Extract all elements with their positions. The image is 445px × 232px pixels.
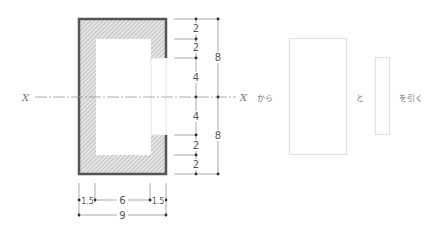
axis-label-right: X	[239, 92, 248, 103]
svg-text:4: 4	[193, 72, 199, 83]
and-text: と	[356, 94, 364, 103]
svg-text:2: 2	[193, 140, 199, 151]
svg-text:8: 8	[215, 130, 221, 141]
channel-section-diagram: X X 2 2 4 4 2 2 8 8	[0, 0, 445, 232]
svg-text:2: 2	[193, 23, 199, 34]
channel-section	[79, 19, 166, 174]
inner-rectangle	[376, 58, 390, 135]
axis-label-left: X	[21, 92, 30, 103]
svg-text:9: 9	[119, 210, 125, 221]
svg-text:6: 6	[119, 195, 125, 206]
horizontal-dimension-labels: 1.5 6 1.5 9	[81, 194, 165, 221]
outer-rectangle	[290, 39, 347, 155]
subtract-text: を引く	[399, 94, 423, 103]
from-text: から	[257, 94, 273, 103]
svg-text:2: 2	[193, 42, 199, 53]
svg-text:2: 2	[193, 159, 199, 170]
svg-text:4: 4	[193, 111, 199, 122]
svg-text:1.5: 1.5	[152, 197, 165, 206]
svg-text:1.5: 1.5	[81, 197, 94, 206]
svg-text:8: 8	[215, 52, 221, 63]
